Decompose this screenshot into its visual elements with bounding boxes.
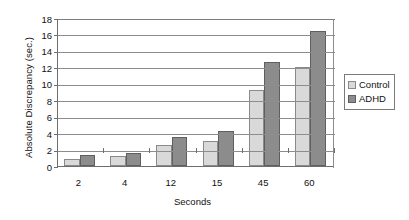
y-tick-label: 4	[47, 130, 52, 139]
legend-item-adhd: ADHD	[348, 92, 390, 106]
gridline	[58, 52, 335, 53]
legend-swatch-adhd	[348, 95, 356, 103]
bar-adhd-4	[126, 153, 142, 166]
x-tick-label: 45	[258, 178, 269, 188]
y-tick-label: 10	[41, 80, 52, 89]
bar-control-4	[110, 156, 126, 166]
x-tick-mark	[149, 148, 150, 153]
legend-label-control: Control	[359, 80, 390, 90]
bar-group	[243, 19, 289, 166]
bar-control-2	[64, 159, 80, 166]
x-tick-label: 60	[304, 178, 315, 188]
y-tick-mark	[54, 35, 58, 36]
x-tick-mark	[196, 148, 197, 153]
legend-label-adhd: ADHD	[359, 94, 386, 104]
y-tick-mark	[54, 19, 58, 20]
bar-control-12	[156, 145, 172, 166]
gridline	[58, 151, 335, 152]
x-tick-mark	[288, 148, 289, 153]
y-tick-label: 6	[47, 113, 52, 122]
x-tick-label: 15	[212, 178, 223, 188]
y-tick-mark	[54, 85, 58, 86]
bar-group	[150, 19, 196, 166]
y-tick-label: 8	[47, 97, 52, 106]
gridline	[58, 134, 335, 135]
y-tick-label: 2	[47, 146, 52, 155]
legend-item-control: Control	[348, 78, 390, 92]
x-tick-mark	[242, 148, 243, 153]
x-axis-title-text: Seconds	[174, 196, 211, 207]
gridline	[58, 85, 335, 86]
y-tick-mark	[54, 101, 58, 102]
legend-swatch-control	[348, 81, 356, 89]
bar-adhd-12	[172, 137, 188, 166]
y-tick-label: 0	[47, 163, 52, 172]
plot-right-border	[333, 19, 334, 168]
y-tick-mark	[54, 118, 58, 119]
y-tick-mark	[54, 52, 58, 53]
bar-group	[104, 19, 150, 166]
y-tick-label: 16	[41, 31, 52, 40]
bar-adhd-15	[218, 131, 234, 166]
bar-group	[289, 19, 335, 166]
gridline	[58, 19, 335, 20]
y-tick-mark	[54, 167, 58, 168]
x-tick-label: 2	[76, 178, 81, 188]
chart-legend: Control ADHD	[344, 74, 395, 110]
y-tick-label: 14	[41, 47, 52, 56]
bar-control-15	[203, 141, 219, 166]
x-axis-title: Seconds	[0, 196, 409, 207]
bar-chart: Absolute Discrepancy (sec.) 024681012141…	[0, 0, 409, 220]
x-tick-mark	[103, 148, 104, 153]
x-tick-label: 12	[166, 178, 177, 188]
y-tick-label: 18	[41, 15, 52, 24]
bar-adhd-2	[80, 155, 96, 167]
gridline	[58, 101, 335, 102]
x-tick-mark	[334, 148, 335, 153]
gridline	[58, 35, 335, 36]
y-axis-title: Absolute Discrepancy (sec.)	[23, 13, 34, 183]
x-tick-label: 4	[122, 178, 127, 188]
bar-group	[58, 19, 104, 166]
plot-area	[57, 19, 334, 167]
y-tick-mark	[54, 68, 58, 69]
bar-group	[197, 19, 243, 166]
gridline	[58, 118, 335, 119]
gridline	[58, 68, 335, 69]
bars-layer	[58, 19, 334, 166]
y-tick-mark	[54, 134, 58, 135]
x-tick-mark	[57, 148, 58, 153]
y-tick-label: 12	[41, 64, 52, 73]
